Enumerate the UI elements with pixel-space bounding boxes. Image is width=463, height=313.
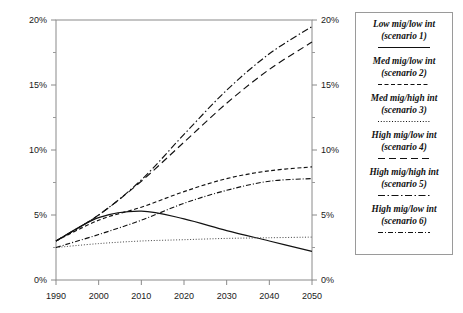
y-axis-left-label: 10% <box>29 145 47 155</box>
legend-entry: Low mig/low int(scenario 1) <box>360 19 448 51</box>
legend-entry-label-line2: (scenario 1) <box>360 31 448 43</box>
legend-entry-label-line2: (scenario 6) <box>360 216 448 228</box>
y-axis-right-label: 15% <box>321 80 339 90</box>
legend-entry: High mig/low int(scenario 6) <box>360 204 448 236</box>
legend-line-swatch <box>377 229 431 236</box>
legend-line-swatch <box>377 81 431 88</box>
legend-line-swatch <box>377 155 431 162</box>
legend-entry: High mig/high int(scenario 5) <box>360 167 448 199</box>
legend-entry-label-line2: (scenario 2) <box>360 68 448 80</box>
y-axis-right-label: 20% <box>321 15 339 25</box>
legend-entry-label-line2: (scenario 4) <box>360 142 448 154</box>
y-axis-left-label: 5% <box>34 210 47 220</box>
legend-line-swatch <box>377 192 431 199</box>
y-axis-right-label: 10% <box>321 145 339 155</box>
chart-legend: Low mig/low int(scenario 1)Med mig/low i… <box>355 12 453 255</box>
x-axis-label: 2040 <box>259 291 279 301</box>
y-axis-right-label: 0% <box>321 275 334 285</box>
legend-entry-label-line2: (scenario 5) <box>360 179 448 191</box>
legend-entry-label-line1: Med mig/low int <box>360 56 448 68</box>
legend-entry: Med mig/high int(scenario 3) <box>360 93 448 125</box>
y-axis-right-label: 5% <box>321 210 334 220</box>
y-axis-left-label: 0% <box>34 275 47 285</box>
x-axis-label: 2010 <box>131 291 151 301</box>
y-axis-left-label: 20% <box>29 15 47 25</box>
legend-entry-label-line2: (scenario 3) <box>360 105 448 117</box>
legend-line-swatch <box>377 44 431 51</box>
legend-entry-label-line1: Low mig/low int <box>360 19 448 31</box>
y-axis-left-label: 15% <box>29 80 47 90</box>
x-axis-label: 2050 <box>302 291 322 301</box>
legend-entry-label-line1: High mig/low int <box>360 130 448 142</box>
legend-entry-label-line1: High mig/high int <box>360 167 448 179</box>
legend-line-swatch <box>377 118 431 125</box>
x-axis-label: 1990 <box>46 291 66 301</box>
legend-entry: High mig/low int(scenario 4) <box>360 130 448 162</box>
legend-entry-label-line1: High mig/low int <box>360 204 448 216</box>
x-axis-label: 2030 <box>217 291 237 301</box>
legend-entry-label-line1: Med mig/high int <box>360 93 448 105</box>
x-axis-label: 2020 <box>174 291 194 301</box>
legend-entry: Med mig/low int(scenario 2) <box>360 56 448 88</box>
x-axis-label: 2000 <box>89 291 109 301</box>
